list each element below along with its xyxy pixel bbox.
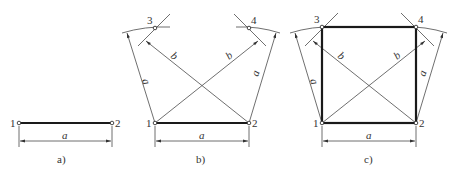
point-1-label: 1 xyxy=(313,117,319,129)
dimension-label: a xyxy=(62,129,68,141)
panel-c: a a b b 1 2 3 4 a c) xyxy=(290,13,447,166)
point-4-label: 4 xyxy=(418,13,424,25)
point-2 xyxy=(247,121,251,125)
label-a-left: a xyxy=(140,77,153,86)
point-1-label: 1 xyxy=(10,117,16,129)
panel-caption: a) xyxy=(57,153,66,166)
square-outline xyxy=(322,27,416,123)
radius-b-left xyxy=(146,41,249,123)
dimension-label: a xyxy=(199,129,205,141)
point-4 xyxy=(247,26,251,30)
label-a-right: a xyxy=(248,68,261,77)
panel-caption: b) xyxy=(196,153,206,166)
point-3 xyxy=(153,26,157,30)
arc-right-a xyxy=(236,27,280,33)
panel-a: 1 2 a a) xyxy=(10,117,121,166)
dimension-label: a xyxy=(366,129,372,141)
point-4 xyxy=(414,25,418,29)
radius-a-right xyxy=(249,33,276,123)
point-1 xyxy=(17,121,21,125)
label-a-right: a xyxy=(415,68,428,77)
point-3-label: 3 xyxy=(147,14,153,26)
point-2 xyxy=(110,121,114,125)
panel-b: a a b b 1 2 3 4 a b) xyxy=(122,14,280,166)
point-2-label: 2 xyxy=(115,117,121,129)
label-b-right: b xyxy=(223,48,235,61)
point-1-label: 1 xyxy=(146,117,152,129)
point-1 xyxy=(320,121,324,125)
point-2-label: 2 xyxy=(252,117,258,129)
point-3-label: 3 xyxy=(314,13,320,25)
radius-b-left xyxy=(313,41,416,123)
panel-caption: c) xyxy=(364,153,373,166)
point-2 xyxy=(414,121,418,125)
point-3 xyxy=(320,25,324,29)
point-1 xyxy=(153,121,157,125)
point-4-label: 4 xyxy=(251,14,257,26)
arc-left-a xyxy=(122,27,170,33)
radius-b-right xyxy=(322,41,425,123)
point-2-label: 2 xyxy=(419,117,425,129)
label-a-left: a xyxy=(308,77,321,86)
radius-b-right xyxy=(155,41,258,123)
radius-a-right xyxy=(416,33,443,123)
construction-diagram: 1 2 a a) a a b b 1 2 3 4 xyxy=(0,0,457,177)
